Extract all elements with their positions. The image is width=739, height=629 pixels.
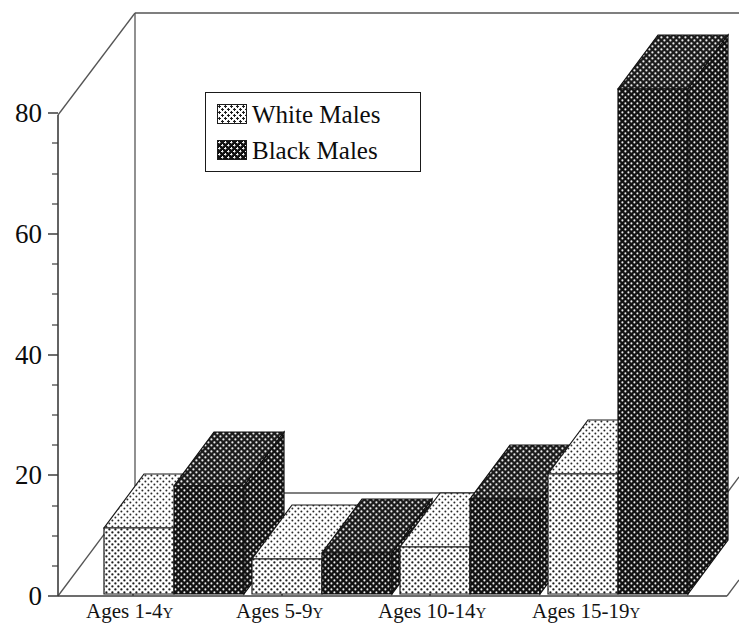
legend-item-black-males: Black Males [217,133,378,167]
left-wall-top-edge [58,13,135,115]
bar-black-males-ages-15-19 [618,35,728,594]
x-tick-label-ages-15-19: Ages 15-19Y [532,601,640,622]
back-wall-right-edge [727,477,739,493]
legend-swatch-black-males-icon [217,140,247,160]
x-tick-label-ages-10-14: Ages 10-14Y [378,601,486,622]
x-tick-label-ages-10-14-text: Ages 10-14 [378,599,475,623]
chart-legend: White Males Black Males [205,92,421,172]
x-tick-label-ages-1-4-unit: Y [162,605,173,621]
y-tick-label-80: 80 [0,100,42,127]
legend-label-black-males: Black Males [252,138,378,163]
y-axis-ticks [48,113,58,596]
floor-right-edge [727,580,739,596]
legend-label-white-males: White Males [252,102,380,127]
y-tick-label-40: 40 [0,342,42,369]
y-tick-label-60: 60 [0,221,42,248]
x-tick-label-ages-15-19-text: Ages 15-19 [532,599,629,623]
y-tick-label-0: 0 [0,583,42,610]
x-tick-label-ages-15-19-unit: Y [629,605,640,621]
x-tick-label-ages-5-9-text: Ages 5-9 [236,599,312,623]
bar-chart: 80 60 40 20 0 Ages 1-4Y Ages 5-9Y Ages 1… [0,0,739,629]
bar-group-ages-15-19 [548,35,728,594]
x-tick-label-ages-10-14-unit: Y [475,605,486,621]
x-tick-label-ages-1-4: Ages 1-4Y [86,601,173,622]
legend-swatch-white-males-icon [217,104,247,124]
y-tick-label-20: 20 [0,462,42,489]
x-tick-label-ages-5-9: Ages 5-9Y [236,601,323,622]
legend-item-white-males: White Males [217,97,380,131]
x-tick-label-ages-1-4-text: Ages 1-4 [86,599,162,623]
x-tick-label-ages-5-9-unit: Y [312,605,323,621]
